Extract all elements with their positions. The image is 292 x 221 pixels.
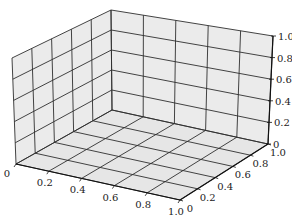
x-tick-label: 1.0 <box>168 206 184 217</box>
y-tick-label: 0.4 <box>217 181 233 192</box>
x-tick <box>80 178 82 181</box>
x-tick-label: 0.6 <box>102 192 118 203</box>
z-tick-label: 0.8 <box>277 53 292 64</box>
x-tick-label: 0.4 <box>70 184 86 195</box>
z-tick-label: 0 <box>273 139 279 150</box>
y-tick <box>198 189 201 190</box>
y-tick <box>180 200 183 201</box>
z-tick-label: 0.2 <box>274 117 290 128</box>
x-tick-label: 0.8 <box>135 199 151 210</box>
3d-axes-plot: 00.20.40.60.81.000.20.40.60.81.000.20.40… <box>0 0 292 221</box>
x-tick <box>112 186 114 189</box>
z-tick-label: 0.6 <box>276 74 292 85</box>
y-tick <box>215 178 218 179</box>
y-tick-label: 0.2 <box>200 192 216 203</box>
z-tick-label: 1.0 <box>278 31 292 42</box>
x-tick <box>178 200 180 203</box>
x-tick <box>14 164 16 167</box>
y-tick-label: 0.8 <box>252 158 268 169</box>
x-tick <box>47 171 49 174</box>
y-tick-label: 0.6 <box>235 169 251 180</box>
y-tick-label: 0 <box>187 203 193 214</box>
z-tick-label: 0.4 <box>275 96 291 107</box>
y-tick <box>233 166 236 167</box>
x-tick-label: 0 <box>4 168 10 179</box>
x-tick-label: 0.2 <box>37 177 53 188</box>
y-tick <box>250 155 253 156</box>
x-tick <box>145 193 147 196</box>
